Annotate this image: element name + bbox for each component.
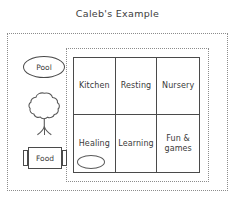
page-title: Caleb's Example	[0, 8, 235, 19]
cell-kitchen[interactable]: Kitchen	[74, 58, 116, 115]
tree-icon	[24, 88, 66, 138]
pool-label: Pool	[36, 63, 52, 72]
healing-oval-icon	[77, 155, 105, 169]
food-right-tab	[62, 150, 67, 166]
cell-fun-and-games[interactable]: Fun & games	[157, 115, 199, 172]
cell-label-kitchen: Kitchen	[78, 81, 111, 90]
cell-label-resting: Resting	[120, 81, 153, 90]
food-label: Food	[36, 154, 54, 163]
pool-shape[interactable]: Pool	[23, 56, 65, 78]
cell-healing[interactable]: Healing	[74, 115, 116, 172]
cell-resting[interactable]: Resting	[116, 58, 158, 115]
cell-learning[interactable]: Learning	[116, 115, 158, 172]
cell-label-healing: Healing	[78, 139, 111, 148]
cell-nursery[interactable]: Nursery	[157, 58, 199, 115]
diagram-canvas: Caleb's Example Kitchen Resting Nursery …	[0, 0, 235, 207]
room-grid: Kitchen Resting Nursery Healing Learning…	[73, 57, 200, 173]
cell-label-fun-and-games: Fun & games	[163, 134, 192, 152]
cell-label-learning: Learning	[117, 139, 155, 148]
food-shape[interactable]: Food	[28, 147, 62, 169]
cell-label-nursery: Nursery	[161, 81, 195, 90]
